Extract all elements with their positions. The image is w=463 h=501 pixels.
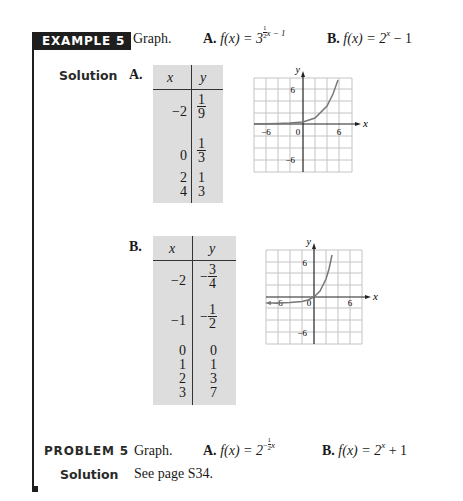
graph-a-y-label: y <box>295 66 301 75</box>
problem-instruction: Graph. <box>134 443 173 459</box>
table-a-header-y: y <box>200 71 206 85</box>
graph-b-y-label: y <box>306 238 312 247</box>
table-b-row-4-x: 2 <box>179 372 186 386</box>
table-a-row-3-y: 3 <box>198 185 205 199</box>
table-a-row-2-y: 1 <box>198 171 205 185</box>
table-a-row-2-x: 2 <box>180 171 187 185</box>
problem-part-b-constant: + 1 <box>385 443 407 458</box>
graph-b: y x 6 −6 −6 0 6 <box>260 238 382 350</box>
part-a-exponent-fraction: 12 <box>263 25 267 40</box>
table-b-row-5-x: 3 <box>179 386 186 400</box>
table-b-column-rule <box>192 236 193 405</box>
problem-part-b: B. f(x) = 2x + 1 <box>322 443 407 459</box>
part-b-constant: − 1 <box>390 31 412 46</box>
part-b-label: B. <box>327 31 340 46</box>
graph-a-tick-y-6: 6 <box>291 85 296 95</box>
graph-b-tick-x-6: 6 <box>348 298 353 308</box>
graph-a-y-arrow-icon <box>301 71 305 77</box>
graph-a-curve <box>254 80 338 124</box>
table-a-column-rule <box>191 65 192 203</box>
problem-part-b-exponent: x <box>381 440 385 450</box>
table-a-header-rule <box>153 89 223 90</box>
table-b-header-x: x <box>169 242 175 256</box>
graph-b-y-arrow-icon <box>312 243 316 249</box>
example-instruction: Graph. <box>133 31 172 47</box>
problem-part-a-exponent-var: x <box>271 440 275 450</box>
graph-a-x-label: x <box>362 117 368 129</box>
table-b-row-3-y: 1 <box>210 358 217 372</box>
table-b-row-5-y: 7 <box>210 386 217 400</box>
table-a-row-0-y: 19 <box>197 93 206 120</box>
graph-a-tick-y-neg6: −6 <box>285 155 295 165</box>
problem-part-a: A. f(x) = 2−12x <box>203 443 275 459</box>
graph-a-x-arrow-icon <box>355 122 361 126</box>
problem-part-b-function: f(x) = 2 <box>338 443 381 458</box>
solution-part-a-label: A. <box>129 67 143 83</box>
problem-part-a-label: A. <box>203 443 217 458</box>
graph-a-tick-x-6: 6 <box>337 127 342 137</box>
example-left-rule <box>32 48 34 489</box>
problem-part-b-label: B. <box>322 443 335 458</box>
graph-b-x-label: x <box>372 290 378 302</box>
table-a-row-0-x: −2 <box>172 105 187 119</box>
table-b-row-2-y: 0 <box>210 344 217 358</box>
table-a-row-3-x: 4 <box>180 185 187 199</box>
graph-a-tick-origin: 0 <box>296 127 301 137</box>
graph-a: y x 6 −6 −6 0 6 <box>248 66 370 178</box>
table-a-header-x: x <box>167 71 173 85</box>
table-a-row-1-y: 13 <box>197 137 206 164</box>
part-b-function: f(x) = 2 <box>343 31 386 46</box>
table-b-header-rule <box>153 260 236 261</box>
table-b-row-0-y: −34 <box>200 263 217 290</box>
example-badge: EXAMPLE 5 <box>32 32 131 50</box>
table-b-row-2-x: 0 <box>179 344 186 358</box>
part-a-exponent: x − 1 <box>267 28 286 38</box>
solution-part-b-label: B. <box>129 239 142 255</box>
solution-label: Solution <box>59 68 118 83</box>
example-part-a: A. f(x) = 312x − 1 <box>203 31 286 47</box>
problem-solution-text: See page S34. <box>134 466 213 482</box>
table-b-row-3-x: 1 <box>179 358 186 372</box>
part-a-function: f(x) = 3 <box>220 31 263 46</box>
table-a: x y −2 19 0 13 2 1 4 3 <box>153 65 223 203</box>
graph-b-x-arrow-icon <box>365 295 371 299</box>
graph-b-tick-y-6: 6 <box>303 258 308 268</box>
table-b-row-1-x: −1 <box>171 314 186 328</box>
problem-badge: PROBLEM 5 <box>44 444 129 458</box>
table-b-header-y: y <box>209 242 215 256</box>
graph-a-tick-x-neg6: −6 <box>261 127 271 137</box>
table-b-row-4-y: 3 <box>210 372 217 386</box>
problem-part-a-function: f(x) = 2 <box>220 443 263 458</box>
example-part-b: B. f(x) = 2x − 1 <box>327 31 412 47</box>
part-a-label: A. <box>203 31 217 46</box>
end-square-marker <box>32 486 38 492</box>
part-b-exponent: x <box>386 28 390 38</box>
problem-solution-label: Solution <box>60 467 119 482</box>
table-b: x y −2 −34 −1 −12 0 0 1 1 2 3 3 7 <box>153 236 236 405</box>
table-b-row-0-x: −2 <box>171 274 186 288</box>
graph-b-tick-y-neg6: −6 <box>297 328 307 338</box>
table-b-row-1-y: −12 <box>200 303 217 330</box>
table-a-row-1-x: 0 <box>180 149 187 163</box>
